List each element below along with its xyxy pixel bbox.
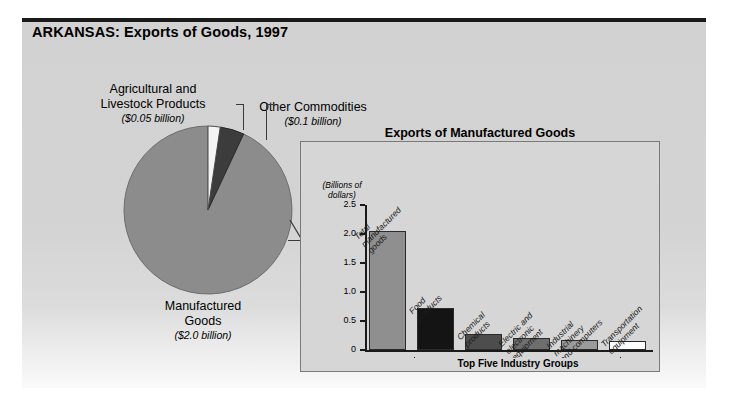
pie-callout-other-commodities: Other Commodities ($0.1 billion) <box>238 100 388 127</box>
y-tick-label: 1.0 <box>326 286 356 296</box>
bracket-label: Top Five Industry Groups <box>414 358 622 369</box>
leader-line-other-elbow <box>266 104 274 105</box>
y-axis-caption: (Billions of dollars) <box>307 180 377 200</box>
pie-callout-other-name: Other Commodities <box>238 100 388 115</box>
pie-callout-manufactured-name: Manufactured Goods <box>118 299 288 329</box>
pie-callout-agricultural-name: Agricultural and Livestock Products <box>58 82 248 112</box>
y-tick-label: 2.0 <box>326 228 356 238</box>
pie-callout-manufactured-value: ($2.0 billion) <box>118 329 288 341</box>
pie-callout-agricultural-value: ($0.05 billion) <box>58 112 248 124</box>
y-tick-label: 0 <box>326 344 356 354</box>
y-tick-label: 0.5 <box>326 315 356 325</box>
pie-callout-agricultural: Agricultural and Livestock Products ($0.… <box>58 82 248 124</box>
page-title: ARKANSAS: Exports of Goods, 1997 <box>32 24 288 40</box>
leader-line-other <box>266 104 267 140</box>
title-rule <box>22 18 706 22</box>
pie-callout-manufactured: Manufactured Goods ($2.0 billion) <box>118 299 288 341</box>
y-tick-label: 2.5 <box>326 199 356 209</box>
inset-chart-title: Exports of Manufactured Goods <box>300 126 660 140</box>
y-tick-label: 1.5 <box>326 257 356 267</box>
